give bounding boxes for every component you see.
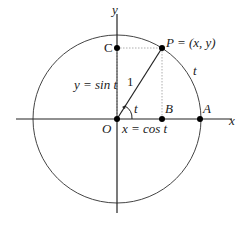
label-a: A	[202, 101, 211, 116]
label-b: B	[165, 101, 173, 116]
label-c: C	[104, 40, 113, 55]
point-a	[197, 116, 203, 122]
point-c	[114, 45, 120, 51]
y-axis-label: y	[110, 2, 118, 17]
label-cos: x = cos t	[121, 121, 168, 136]
point-p	[159, 45, 165, 51]
unit-circle-diagram: y x C P = (x, y) t 1 y = sin t t B A O x…	[0, 0, 247, 227]
label-radius: 1	[127, 74, 134, 89]
radius-line	[117, 48, 162, 119]
label-angle-t: t	[134, 101, 138, 116]
point-origin	[114, 116, 120, 122]
angle-arc-icon	[125, 106, 132, 119]
label-sin: y = sin t	[72, 77, 117, 92]
label-p: P = (x, y)	[165, 35, 216, 50]
label-origin: O	[102, 121, 112, 136]
x-axis-label: x	[228, 113, 235, 128]
label-arc-t: t	[193, 63, 197, 78]
